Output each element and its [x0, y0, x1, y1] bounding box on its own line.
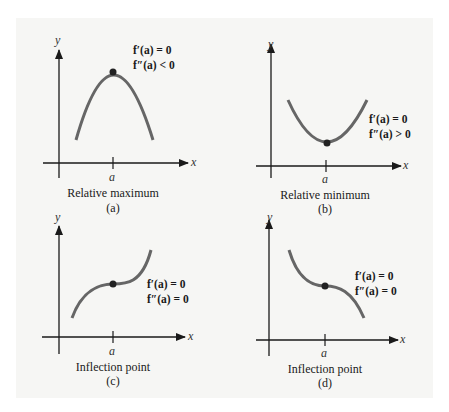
- panel-b-sublabel: (b): [275, 202, 375, 217]
- panel-c-tick-label: a: [109, 344, 115, 359]
- panel-b-caption: Relative minimum: [275, 188, 375, 203]
- panel-c-x-label: x: [188, 329, 193, 344]
- panel-d-second-derivative: f″(a) = 0: [355, 283, 397, 300]
- panel-b-tick-label: a: [322, 172, 328, 187]
- panel-b-curve: [288, 100, 367, 142]
- panel-c-sublabel: (c): [63, 374, 163, 389]
- panel-a-y-label: y: [55, 33, 60, 48]
- panel-a-caption: Relative maximum: [63, 186, 163, 201]
- panel-d-tick-label: a: [321, 346, 327, 361]
- panel-a-x-label: x: [191, 155, 196, 170]
- panel-d-critical-point: [322, 283, 329, 290]
- panel-b-second-derivative: f″(a) > 0: [369, 126, 411, 143]
- panel-a-second-derivative: f″(a) < 0: [133, 57, 175, 74]
- panel-c-y-label: y: [55, 210, 60, 225]
- panel-b-critical-point: [324, 140, 331, 147]
- panel-a-curve: [76, 75, 153, 140]
- panel-a-critical-point: [110, 69, 117, 76]
- panel-c-critical-point: [110, 281, 117, 288]
- panel-d-caption: Inflection point: [275, 362, 375, 377]
- panel-c-second-derivative: f″(a) = 0: [147, 291, 189, 308]
- panel-a-sublabel: (a): [63, 201, 163, 216]
- panel-d-y-label: y: [267, 210, 272, 225]
- panel-a-tick-label: a: [109, 170, 115, 185]
- panel-c-caption: Inflection point: [63, 360, 163, 375]
- panel-b-x-label: x: [403, 158, 408, 173]
- panel-b-y-label: y: [268, 37, 273, 52]
- panel-d-x-label: x: [400, 332, 405, 347]
- panel-d-sublabel: (d): [275, 376, 375, 391]
